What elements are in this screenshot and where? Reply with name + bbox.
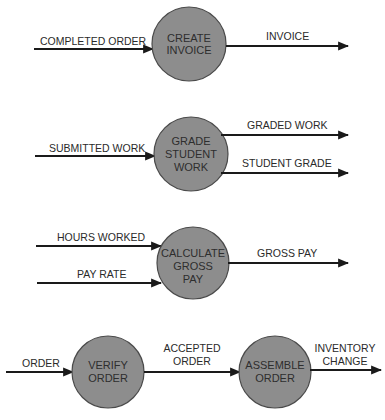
flow-label-invoice: INVOICE	[266, 30, 309, 42]
diagram-verify-assemble-order: ORDER VERIFY ORDER ACCEPTED ORDER ASSEMB…	[6, 336, 381, 408]
process-label-line-3: PAY	[183, 273, 204, 285]
flow-label-completed-order: COMPLETED ORDER	[40, 35, 147, 47]
process-label-line-2: ORDER	[255, 372, 295, 384]
diagram-grade-student-work: SUBMITTED WORK GRADE STUDENT WORK GRADED…	[35, 117, 348, 191]
process-label-line-2: STUDENT	[165, 148, 217, 160]
flow-label-pay-rate: PAY RATE	[77, 268, 126, 280]
process-label-line-1: CREATE	[167, 32, 211, 44]
flow-label-gross-pay: GROSS PAY	[257, 247, 317, 259]
flow-label-graded-work: GRADED WORK	[247, 119, 328, 131]
diagram-calculate-gross-pay: HOURS WORKED PAY RATE CALCULATE GROSS PA…	[36, 227, 348, 299]
process-label-line-1: ASSEMBLE	[245, 359, 304, 371]
flow-label-accepted-order-line-2: ORDER	[173, 355, 211, 367]
process-label-line-1: CALCULATE	[161, 247, 225, 259]
flow-label-student-grade: STUDENT GRADE	[242, 157, 332, 169]
flow-label-accepted-order-line-1: ACCEPTED	[163, 342, 221, 354]
flow-label-order: ORDER	[22, 357, 60, 369]
process-label-line-2: INVOICE	[166, 44, 211, 56]
diagram-create-invoice: COMPLETED ORDER CREATE INVOICE INVOICE	[34, 7, 348, 81]
flow-label-submitted-work: SUBMITTED WORK	[49, 142, 145, 154]
data-flow-diagrams: COMPLETED ORDER CREATE INVOICE INVOICE S…	[0, 0, 385, 420]
process-label-line-2: ORDER	[88, 372, 128, 384]
process-label-line-2: GROSS	[173, 260, 213, 272]
flow-label-inventory-change-line-1: INVENTORY	[315, 342, 376, 354]
process-label-line-3: WORK	[174, 161, 209, 173]
process-label-line-1: VERIFY	[88, 359, 128, 371]
flow-label-inventory-change-line-2: CHANGE	[323, 355, 368, 367]
process-label-line-1: GRADE	[171, 135, 210, 147]
flow-label-hours-worked: HOURS WORKED	[57, 231, 146, 243]
